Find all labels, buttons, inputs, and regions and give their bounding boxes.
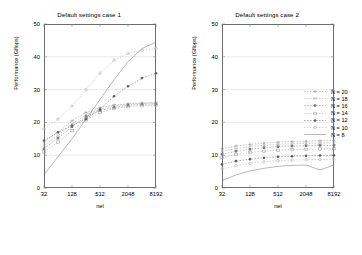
panel-title: Default settings case 1 <box>0 11 178 18</box>
y-tick-label: 50 <box>196 21 218 27</box>
legend-marker-icon <box>303 95 327 102</box>
chart-legend: N = 20N = 18N = 16N = 14N = 12N = 10N = … <box>303 88 355 138</box>
y-tick-label: 10 <box>196 152 218 158</box>
x-tick-label: 128 <box>59 191 85 197</box>
legend-label: N = 10 <box>327 125 348 131</box>
x-tick-label: 512 <box>87 191 113 197</box>
y-tick-label: 30 <box>18 87 40 93</box>
legend-label: N = 12 <box>327 117 348 123</box>
legend-item[interactable]: N = 12 <box>303 117 355 124</box>
legend-item[interactable]: N = 10 <box>303 124 355 131</box>
plot-area-case-1 <box>44 24 156 188</box>
legend-label: N = 16 <box>327 103 348 109</box>
legend-item[interactable]: N = 16 <box>303 102 355 109</box>
y-tick-label: 40 <box>196 54 218 60</box>
legend-item[interactable]: N = 8 <box>303 131 355 138</box>
chart-panel-case-1: Default settings case 1 Performance (Gfl… <box>0 0 178 255</box>
x-tick-label: 32 <box>209 191 235 197</box>
x-tick-label: 2048 <box>293 191 319 197</box>
legend-item[interactable]: N = 18 <box>303 95 355 102</box>
legend-marker-icon <box>303 124 327 131</box>
x-axis-label: nel <box>222 203 334 209</box>
y-tick-label: 10 <box>18 152 40 158</box>
legend-marker-icon <box>303 117 327 124</box>
x-axis-label: nel <box>44 203 156 209</box>
legend-marker-icon <box>303 110 327 117</box>
x-tick-label: 8192 <box>321 191 347 197</box>
x-tick-label: 512 <box>265 191 291 197</box>
legend-item[interactable]: N = 20 <box>303 88 355 95</box>
x-tick-label: 32 <box>31 191 57 197</box>
x-tick-label: 128 <box>237 191 263 197</box>
x-tick-label: 8192 <box>143 191 169 197</box>
legend-item[interactable]: N = 14 <box>303 110 355 117</box>
legend-marker-icon <box>303 102 327 109</box>
y-tick-label: 30 <box>196 87 218 93</box>
y-axis-label: Performance (Gflops) <box>191 15 197 111</box>
legend-label: N = 8 <box>327 132 345 138</box>
y-tick-label: 20 <box>18 119 40 125</box>
panel-title: Default settings case 2 <box>178 11 356 18</box>
legend-marker-icon <box>303 88 327 95</box>
legend-marker-icon <box>303 131 327 138</box>
x-tick-label: 2048 <box>115 191 141 197</box>
y-tick-label: 50 <box>18 21 40 27</box>
legend-label: N = 20 <box>327 89 348 95</box>
y-tick-label: 20 <box>196 119 218 125</box>
legend-label: N = 14 <box>327 110 348 116</box>
legend-label: N = 18 <box>327 96 348 102</box>
figure-canvas: Default settings case 1 Performance (Gfl… <box>0 0 362 255</box>
y-axis-label: Performance (Gflops) <box>13 15 19 111</box>
y-tick-label: 40 <box>18 54 40 60</box>
